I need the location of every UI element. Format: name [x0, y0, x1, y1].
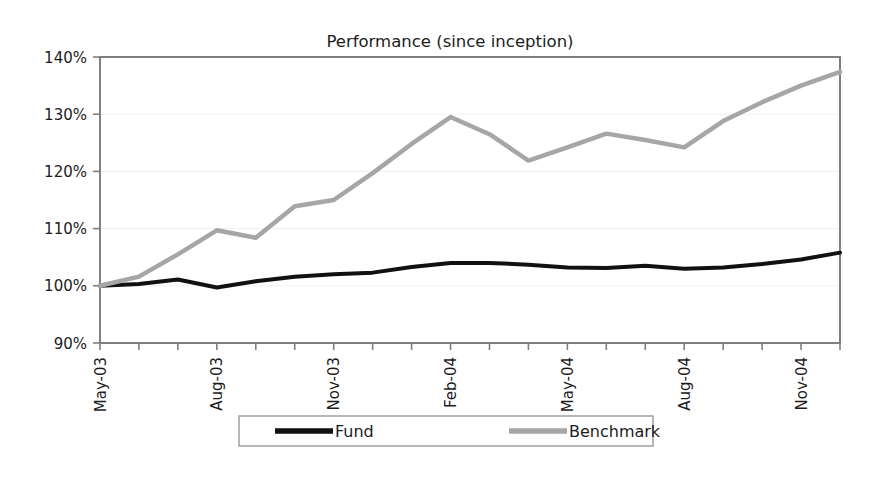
y-axis-tick-label: 130% — [44, 106, 87, 124]
legend-label-fund: Fund — [335, 422, 374, 441]
chart-legend: FundBenchmark — [239, 416, 661, 446]
x-axis-tick-label: Aug-03 — [208, 357, 226, 411]
x-axis-tick-label: Feb-04 — [442, 357, 460, 408]
y-axis-tick-label: 110% — [44, 220, 87, 238]
y-axis-tick-label: 90% — [54, 335, 87, 353]
y-axis-tick-label: 120% — [44, 163, 87, 181]
y-axis-tick-label: 100% — [44, 277, 87, 295]
x-axis-tick-label: Nov-04 — [793, 357, 811, 410]
performance-chart: Performance (since inception) 90%100%110… — [0, 0, 886, 477]
x-axis-tick-label: May-03 — [92, 357, 110, 412]
x-axis-tick-label: May-04 — [559, 357, 577, 412]
y-axis-tick-label: 140% — [44, 49, 87, 67]
x-axis-tick-label: Nov-03 — [325, 357, 343, 410]
chart-canvas: Performance (since inception) 90%100%110… — [0, 0, 886, 477]
chart-title: Performance (since inception) — [326, 32, 573, 51]
x-axis-tick-label: Aug-04 — [676, 357, 694, 411]
legend-label-benchmark: Benchmark — [569, 422, 661, 441]
